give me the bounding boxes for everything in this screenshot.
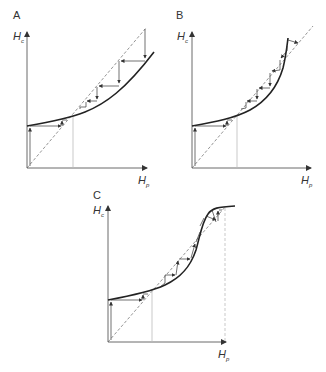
svg-text:H: H [13,30,21,42]
panel-label-b: B [176,9,183,21]
svg-text:p: p [145,182,150,188]
cobweb-c [111,210,222,340]
panel-label-a: A [13,9,21,21]
panel-label-c: C [93,189,101,201]
panel-b: B H c H p [176,9,313,188]
panel-c: C H c H p [93,189,235,362]
svg-text:c: c [21,38,24,44]
svg-text:H: H [138,174,146,186]
curve-b [192,38,288,126]
y-axis-label-b: H c [177,30,188,44]
svg-text:p: p [308,182,313,188]
svg-text:H: H [93,204,101,216]
diagram-canvas: A H c H p B [0,0,326,372]
svg-text:p: p [225,356,230,362]
x-axis-label-c: H p [218,348,230,362]
y-axis-label-a: H c [13,30,24,44]
y-axis-label-c: H c [93,204,104,218]
x-axis-label-a: H p [138,174,150,188]
diagonal-line-a [27,28,146,168]
panel-a: A H c H p [13,9,154,188]
diagonal-line-c [108,206,226,342]
diagonal-line-b [192,26,313,168]
svg-text:c: c [101,212,104,218]
svg-text:H: H [177,30,185,42]
svg-text:H: H [218,348,226,360]
cobweb-b [195,40,298,166]
svg-text:c: c [185,38,188,44]
svg-text:H: H [301,174,309,186]
x-axis-label-b: H p [301,174,313,188]
curve-a [27,52,154,126]
